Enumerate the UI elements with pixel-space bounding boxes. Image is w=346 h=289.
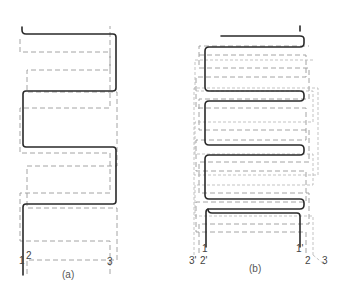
winding-1p-solid — [208, 209, 300, 247]
panel-b: 1 1' 3' 2' 2 3 (b) — [189, 26, 328, 274]
label-b-2p: 2' — [200, 255, 208, 266]
winding-2-dashed — [27, 26, 117, 274]
winding-3-dashed — [195, 60, 313, 255]
label-b-1: 1 — [202, 243, 208, 254]
label-a-3: 3 — [107, 256, 113, 267]
winding-1-solid — [22, 27, 116, 275]
caption-a: (a) — [62, 269, 74, 280]
label-b-3p: 3' — [189, 255, 197, 266]
winding-diagram: 1 2 3 (a) 1 1' 3' 2' 2 3 (b) — [0, 0, 346, 289]
caption-b: (b) — [249, 263, 261, 274]
label-b-2: 2 — [305, 255, 311, 266]
label-b-3: 3 — [322, 255, 328, 266]
label-a-2: 2 — [26, 250, 32, 261]
label-b-1p: 1' — [296, 243, 304, 254]
panel-a: 1 2 3 (a) — [19, 26, 117, 280]
label-a-1: 1 — [19, 255, 25, 266]
winding-3-dashed — [20, 36, 110, 274]
